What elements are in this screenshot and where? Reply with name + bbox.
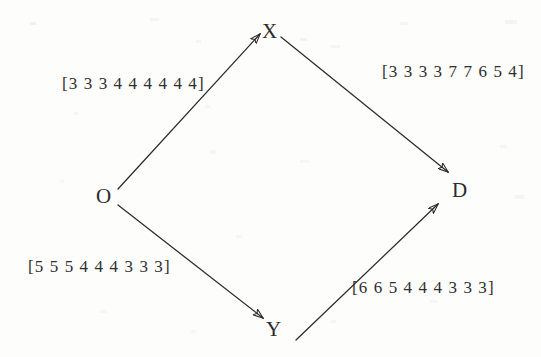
edge-label-x-d: [3 3 3 3 7 7 6 5 4]	[382, 63, 525, 80]
node-label-o: O	[96, 186, 111, 207]
edge-line-o-x	[118, 34, 260, 189]
node-label-x: X	[262, 21, 277, 42]
network-diagram: O X Y D [3 3 3 4 4 4 4 4 4] [3 3 3 3 7 7…	[0, 0, 541, 357]
edge-line-y-d	[296, 204, 438, 340]
edge-label-o-x: [3 3 3 4 4 4 4 4 4]	[62, 75, 205, 92]
edge-label-o-y: [5 5 5 4 4 4 3 3 3]	[28, 258, 171, 275]
node-label-d: D	[452, 180, 467, 201]
edge-line-x-d	[281, 37, 448, 172]
node-label-y: Y	[266, 319, 281, 340]
edge-label-y-d: [6 6 5 4 4 4 3 3 3]	[352, 279, 495, 296]
